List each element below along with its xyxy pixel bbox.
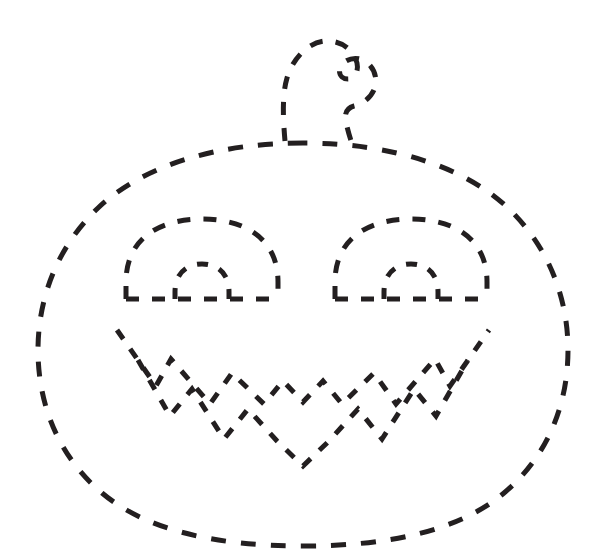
worksheet-canvas [0,0,607,558]
pumpkin-tracing-figure [0,0,607,558]
canvas-background [0,0,607,558]
